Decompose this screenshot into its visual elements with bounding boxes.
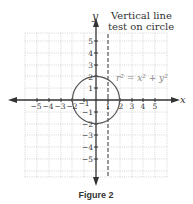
y-tick-label: 4 [88, 49, 93, 58]
graph: −5 −4 −3 −2 −1 1 2 3 4 5 5 4 3 2 1 −1 −2… [0, 0, 193, 204]
y-tick-label: −3 [82, 131, 93, 140]
x-axis-right-arrow-icon [171, 97, 180, 103]
annotation-line-2: test on circle [108, 21, 174, 32]
x-tick-label: 5 [153, 102, 158, 111]
y-tick-label: −5 [82, 155, 93, 164]
x-axis-label: x [180, 94, 186, 105]
y-tick-label: 3 [88, 61, 93, 70]
x-tick-label: −1 [78, 99, 89, 108]
figure-caption: Figure 2 [78, 190, 113, 200]
x-tick-labels: −5 −4 −3 −2 −1 1 2 3 4 5 [30, 99, 157, 111]
x-tick-label: −3 [54, 102, 65, 111]
annotation-line-1: Vertical line [110, 10, 172, 21]
y-tick-label: −4 [82, 143, 93, 152]
x-tick-label: 3 [130, 102, 135, 111]
x-axis-left-arrow-icon [8, 97, 17, 103]
x-tick-label: −4 [42, 102, 53, 111]
y-tick-label: −2 [82, 120, 93, 129]
x-tick-label: 2 [119, 102, 124, 111]
x-tick-label: −2 [66, 102, 77, 111]
y-tick-label: −1 [82, 108, 93, 117]
y-tick-label: 2 [88, 73, 93, 82]
y-tick-label: 5 [88, 37, 93, 46]
y-tick-label: 1 [88, 84, 93, 93]
x-tick-label: 1 [106, 102, 111, 111]
x-tick-label: 4 [141, 102, 146, 111]
y-axis-down-arrow-icon [93, 177, 99, 186]
x-tick-label: −5 [30, 102, 41, 111]
equation-label: r² = x² + y² [116, 73, 168, 83]
y-axis-label: y [91, 10, 99, 23]
